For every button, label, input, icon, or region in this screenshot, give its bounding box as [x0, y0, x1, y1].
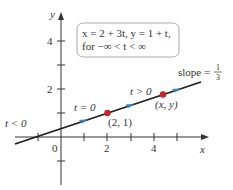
x-tick-label-4: 4 — [151, 142, 157, 154]
x-axis-arrow-icon — [201, 134, 209, 140]
parametric-line-diagram: x = 2 + 3t, y = 1 + t, for −∞ < t < ∞ y … — [0, 0, 233, 190]
y-tick-label-4: 4 — [47, 35, 53, 47]
y-axis-arrow-icon — [58, 12, 64, 20]
equation-line-1: x = 2 + 3t, y = 1 + t, — [82, 27, 171, 39]
t-equals-zero-label: t = 0 — [74, 101, 96, 113]
slope-denominator: 3 — [216, 73, 220, 82]
y-axis-label: y — [49, 8, 55, 20]
x-tick-label-2: 2 — [104, 142, 110, 154]
t-less-than-zero-label: t < 0 — [5, 117, 27, 129]
origin-label: 0 — [52, 142, 58, 154]
point-x-y-label: (x, y) — [155, 98, 178, 111]
y-tick-label-2: 2 — [47, 83, 53, 95]
t-greater-than-zero-label: t > 0 — [130, 85, 152, 97]
slope-numerator: 1 — [216, 63, 220, 72]
slope-label: slope = — [178, 66, 210, 78]
point-2-1-label: (2, 1) — [108, 116, 132, 129]
x-axis-label: x — [199, 143, 205, 155]
equation-line-2: for −∞ < t < ∞ — [82, 40, 146, 52]
point-x-y — [160, 91, 167, 98]
